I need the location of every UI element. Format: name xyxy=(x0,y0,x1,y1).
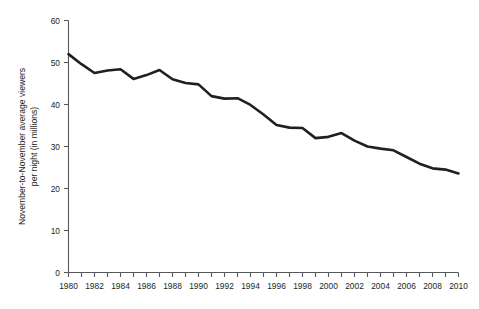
x-tick-label-2004: 2004 xyxy=(371,281,390,291)
x-axis xyxy=(69,273,459,278)
line-chart-figure: 0102030405060 19801982198419861988199019… xyxy=(0,0,479,309)
x-tick-label-2002: 2002 xyxy=(345,281,364,291)
y-axis xyxy=(64,21,69,273)
y-axis-title-line-1: November-to-November average viewers xyxy=(17,68,27,225)
x-tick-label-2006: 2006 xyxy=(397,281,416,291)
x-tick-label-2000: 2000 xyxy=(319,281,338,291)
y-tick-label-10: 10 xyxy=(51,226,61,236)
y-tick-label-20: 20 xyxy=(51,184,61,194)
y-axis-title: November-to-November average viewersper … xyxy=(17,68,39,225)
x-tick-label-1992: 1992 xyxy=(215,281,234,291)
x-tick-label-1988: 1988 xyxy=(163,281,182,291)
y-tick-labels: 0102030405060 xyxy=(51,16,61,278)
x-tick-label-1980: 1980 xyxy=(59,281,78,291)
viewers-trend-line xyxy=(69,54,459,173)
x-tick-label-1984: 1984 xyxy=(111,281,130,291)
x-tick-label-1986: 1986 xyxy=(137,281,156,291)
x-tick-label-1998: 1998 xyxy=(293,281,312,291)
y-axis-title-line-2: per night (in millions) xyxy=(29,107,39,186)
y-tick-label-0: 0 xyxy=(55,268,60,278)
x-tick-label-1990: 1990 xyxy=(189,281,208,291)
y-tick-label-40: 40 xyxy=(51,100,61,110)
y-tick-label-60: 60 xyxy=(51,16,61,26)
x-tick-label-2008: 2008 xyxy=(423,281,442,291)
x-tick-label-1996: 1996 xyxy=(267,281,286,291)
x-tick-label-2010: 2010 xyxy=(449,281,468,291)
x-tick-label-1994: 1994 xyxy=(241,281,260,291)
y-tick-label-30: 30 xyxy=(51,142,61,152)
chart-canvas: 0102030405060 19801982198419861988199019… xyxy=(0,0,479,309)
y-tick-label-50: 50 xyxy=(51,58,61,68)
x-tick-label-1982: 1982 xyxy=(85,281,104,291)
x-tick-labels: 1980198219841986198819901992199419961998… xyxy=(59,281,468,291)
